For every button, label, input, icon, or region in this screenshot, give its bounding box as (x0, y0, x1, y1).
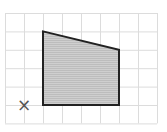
shaded-quadrilateral (43, 31, 119, 105)
grid-diagram: × (0, 0, 167, 132)
cross-marker: × (17, 95, 31, 115)
